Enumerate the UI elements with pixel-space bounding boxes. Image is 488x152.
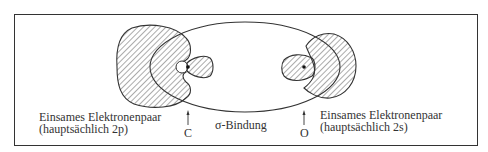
sigma-bond-label: σ-Bindung [215, 119, 267, 132]
carbon-node-circle [176, 61, 188, 73]
carbon-label: C [184, 127, 192, 140]
carbon-arrow-head [187, 110, 190, 115]
carbon-small-lobe [187, 56, 213, 77]
oxygen-lone-pair-label-2: (hauptsächlich 2s) [320, 121, 408, 134]
oxygen-small-lobe [282, 55, 315, 81]
carbon-nucleus [186, 65, 190, 69]
oxygen-label: O [300, 127, 309, 140]
oxygen-nucleus [302, 65, 306, 69]
carbon-lone-pair-label-2: (hauptsächlich 2p) [39, 123, 128, 136]
oxygen-arrow-head [303, 110, 306, 115]
